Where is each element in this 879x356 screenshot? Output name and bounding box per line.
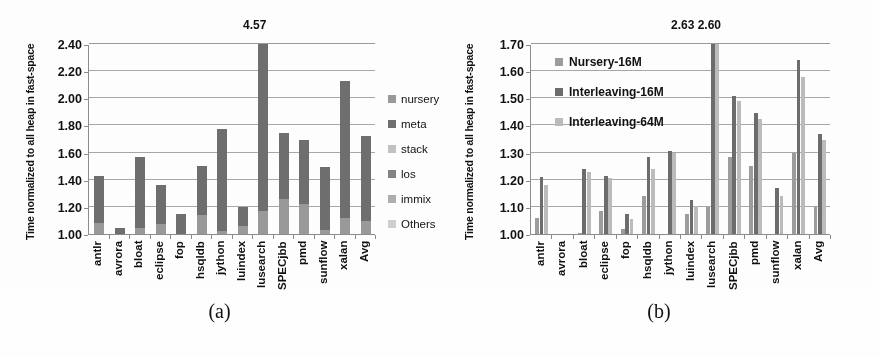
x-tick-label: bloat (132, 241, 144, 297)
bar-group (681, 45, 702, 234)
y-tick-label: 1.50 (482, 93, 524, 106)
bar-group (294, 45, 315, 234)
bar-group (151, 45, 172, 234)
x-tick-mark (744, 235, 745, 239)
bar-group (531, 45, 552, 234)
x-tick-label: luindex (684, 241, 696, 297)
stacked-bar (258, 44, 268, 234)
bar-group (356, 45, 377, 234)
x-tick-mark (659, 235, 660, 239)
bar (822, 140, 826, 234)
caption-b: (b) (439, 300, 879, 323)
bar-segment (94, 223, 104, 234)
legend-item: stack (388, 143, 439, 155)
legend-label: stack (401, 143, 428, 155)
x-tick-label: antlr (534, 241, 546, 297)
legend-label: Nursery-16M (569, 55, 642, 69)
stacked-bar (238, 207, 248, 234)
legend-item: los (388, 168, 439, 180)
bar-segment (217, 129, 227, 232)
bar-group (274, 45, 295, 234)
x-tick-mark (573, 235, 574, 239)
bar-group (171, 45, 192, 234)
bar (749, 166, 753, 234)
y-tick-label: 1.20 (40, 202, 82, 215)
x-tick-mark (701, 235, 702, 239)
x-tick-mark (109, 235, 110, 239)
bar-segment (340, 81, 350, 218)
bar (758, 119, 762, 234)
bar-segment (156, 224, 166, 234)
bar (642, 196, 646, 234)
bar-group (130, 45, 151, 234)
value-annotation-b: 2.63 2.60 (671, 18, 721, 32)
bar-group (192, 45, 213, 234)
x-tick-label: SPECjbb (727, 241, 739, 297)
x-tick-mark (787, 235, 788, 239)
bar (685, 214, 689, 234)
bar-segment (156, 185, 166, 224)
x-tick-label: sunflow (769, 241, 781, 297)
chart-panel-a: Time normalized to all heap in fast-spac… (0, 0, 439, 356)
bar (535, 218, 539, 234)
bar-group (810, 45, 831, 234)
y-tick-label: 1.30 (482, 147, 524, 160)
stacked-bar (94, 176, 104, 234)
bar (621, 229, 625, 234)
y-tick-label: 1.00 (482, 229, 524, 242)
y-tick-label: 2.00 (40, 93, 82, 106)
bar-segment (279, 199, 289, 234)
x-tick-mark (191, 235, 192, 239)
legend-a: nurserymetastacklosimmixOthers (388, 93, 439, 243)
bar-group (745, 45, 766, 234)
gridline (89, 43, 375, 44)
bar-group (767, 45, 788, 234)
stacked-bar (299, 140, 309, 234)
bar (792, 153, 796, 234)
x-tick-label: fop (619, 241, 631, 297)
bar-segment (217, 231, 227, 234)
x-tick-label: pmd (748, 241, 760, 297)
bar (732, 96, 736, 234)
bar (578, 233, 582, 234)
bar-segment (197, 215, 207, 234)
stacked-bar (217, 129, 227, 234)
x-tick-label: avrora (112, 241, 124, 297)
x-tick-mark (170, 235, 171, 239)
figure-container: Time normalized to all heap in fast-spac… (0, 0, 879, 356)
x-tick-mark (150, 235, 151, 239)
legend-swatch-icon (555, 58, 563, 66)
x-tick-label: Avg (812, 241, 824, 297)
x-tick-mark (616, 235, 617, 239)
x-tick-label: xalan (791, 241, 803, 297)
bar (668, 151, 672, 234)
y-tick-label: 1.60 (482, 66, 524, 79)
legend-b: Nursery-16MInterleaving-16MInterleaving-… (555, 55, 664, 145)
bar-group (335, 45, 356, 234)
bar-segment (258, 211, 268, 234)
bar (694, 206, 698, 235)
bar-segment (258, 44, 268, 211)
bar-segment (340, 218, 350, 234)
y-tick-label: 2.20 (40, 66, 82, 79)
x-tick-label: lusearch (705, 241, 717, 297)
x-tick-mark (252, 235, 253, 239)
x-tick-label: sunflow (317, 241, 329, 297)
bar (651, 169, 655, 234)
y-tick-mark (526, 235, 530, 236)
bar-segment (299, 140, 309, 203)
legend-label: Interleaving-16M (569, 85, 664, 99)
bar-segment (361, 221, 371, 234)
x-tick-label: xalan (337, 241, 349, 297)
stacked-bar (197, 166, 207, 234)
bar (780, 196, 784, 234)
x-tick-label: eclipse (153, 241, 165, 297)
legend-swatch-icon (388, 195, 396, 203)
bar (728, 157, 732, 234)
bar (775, 188, 779, 234)
bar-group (315, 45, 336, 234)
y-tick-label: 1.40 (40, 174, 82, 187)
stacked-bar (361, 136, 371, 234)
x-tick-mark (594, 235, 595, 239)
legend-label: Others (401, 218, 436, 230)
